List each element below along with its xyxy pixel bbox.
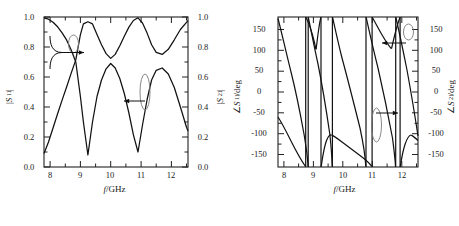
y-tick-right-0: 0.0 [192, 162, 214, 172]
x-axis-label: f/GHz [230, 184, 459, 194]
y-tick-right-0: -150 [421, 149, 451, 159]
x-tick-4: 12 [162, 170, 180, 180]
y-axis-label-right: |S21| [213, 72, 227, 122]
magnitude-panel: 0.0 0.2 0.4 0.6 0.8 1.0 0.0 0.2 0.4 0.6 … [0, 0, 229, 226]
x-tick-0: 8 [275, 170, 293, 180]
y-tick-left-6: 150 [244, 24, 274, 34]
y-tick-left-4: 0.8 [18, 42, 40, 52]
y-tick-left-0: -150 [244, 149, 274, 159]
y-tick-right-5: 1.0 [192, 12, 214, 22]
y-tick-left-2: -50 [244, 107, 274, 117]
x-axis-ticks [284, 17, 417, 167]
y-tick-left-1: 0.2 [18, 132, 40, 142]
x-tick-3: 11 [363, 170, 381, 180]
curve-angle-s21 [278, 17, 418, 167]
y-tick-left-3: 0 [244, 86, 274, 96]
x-tick-2: 10 [334, 170, 352, 180]
y-axis-label-right: ∠S21/deg [444, 62, 458, 132]
x-tick-0: 8 [41, 170, 59, 180]
y-tick-left-3: 0.6 [18, 72, 40, 82]
phase-panel: -150 -100 -50 0 50 100 150 -150 -100 -50… [230, 0, 459, 226]
plot-frame [278, 17, 418, 167]
y-tick-right-4: 0.8 [192, 42, 214, 52]
y-tick-right-1: 0.2 [192, 132, 214, 142]
y-tick-left-4: 50 [244, 65, 274, 75]
y-tick-right-5: 100 [421, 45, 451, 55]
y-tick-right-3: 0.6 [192, 72, 214, 82]
curve-s11-magnitude [44, 18, 188, 155]
x-tick-3: 11 [132, 170, 150, 180]
y-tick-left-5: 1.0 [18, 12, 40, 22]
x-tick-1: 9 [71, 170, 89, 180]
y-axis-label-left: |S11| [2, 72, 16, 122]
x-tick-2: 10 [101, 170, 119, 180]
y-tick-left-2: 0.4 [18, 102, 40, 112]
annotation-angle-s21-pointer [372, 108, 399, 142]
x-tick-4: 12 [393, 170, 411, 180]
figure-container: 0.0 0.2 0.4 0.6 0.8 1.0 0.0 0.2 0.4 0.6 … [0, 0, 459, 226]
y-axis-right-ticks [182, 17, 188, 167]
x-axis-ticks [50, 17, 186, 167]
x-tick-1: 9 [304, 170, 322, 180]
curve-angle-s11 [278, 17, 418, 167]
y-tick-left-5: 100 [244, 45, 274, 55]
y-axis-left-ticks [278, 30, 284, 155]
y-tick-right-6: 150 [421, 24, 451, 34]
x-axis-label: f/GHz [0, 184, 229, 194]
y-axis-label-left: ∠S11/deg [230, 62, 244, 132]
y-tick-left-0: 0.0 [18, 162, 40, 172]
y-tick-left-1: -100 [244, 128, 274, 138]
y-tick-right-2: 0.4 [192, 102, 214, 112]
